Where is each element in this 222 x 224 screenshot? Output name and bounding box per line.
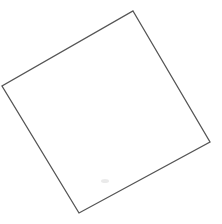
faint-smudge-artifact	[101, 179, 109, 183]
shape-canvas-svg	[0, 0, 222, 224]
drawing-canvas	[0, 0, 222, 224]
canvas-background	[0, 0, 222, 224]
